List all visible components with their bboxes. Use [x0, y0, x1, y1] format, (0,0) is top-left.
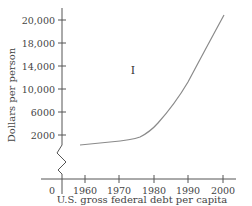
- y-axis-break-icon: [57, 145, 66, 174]
- x-axis-title: U.S. gross federal debt per capita: [57, 194, 228, 205]
- y-tick-label: 18,000: [22, 38, 55, 49]
- y-tick-label: 2000: [31, 130, 55, 141]
- region-label: I: [131, 64, 135, 77]
- y-tick-label: 20,000: [22, 15, 55, 26]
- x-tick-label-zero: 0: [49, 185, 55, 196]
- data-line: [80, 15, 224, 145]
- y-tick-label: 10,000: [22, 84, 55, 95]
- y-tick-label: 6000: [31, 107, 55, 118]
- chart: 20,000 18,000 14,000 10,000 6000 2000 0 …: [0, 0, 252, 206]
- y-tick-labels: 20,000 18,000 14,000 10,000 6000 2000: [22, 15, 55, 141]
- y-tick-label: 14,000: [22, 61, 55, 72]
- y-axis-title: Dollars per person: [6, 47, 17, 142]
